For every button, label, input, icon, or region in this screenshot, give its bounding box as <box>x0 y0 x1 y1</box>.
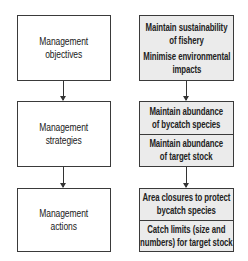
objective-item-environment: Minimise environmental impacts <box>140 50 233 76</box>
label-line: objectives <box>40 48 89 61</box>
label-line: Management <box>40 35 89 48</box>
item-line: Minimise environmental <box>143 50 230 63</box>
management-actions-label: Management actions <box>40 207 89 233</box>
objectives-detail-box: Maintain sustainability of fishery Minim… <box>139 15 234 81</box>
item-line: of bycatch species <box>150 118 224 131</box>
item-line: numbers) for target stock <box>140 236 233 249</box>
item-line: of fishery <box>146 34 228 47</box>
item-line: of target stock <box>150 150 224 163</box>
objective-item-sustainability: Maintain sustainability of fishery <box>140 21 233 47</box>
action-item-area-closures: Area closures to protect bycatch species <box>140 189 233 220</box>
action-item-catch-limits: Catch limits (size and numbers) for targ… <box>140 220 233 252</box>
management-strategies-box: Management strategies <box>17 101 111 167</box>
arrow-objectives-detail-to-strategies-detail <box>186 81 187 100</box>
strategy-item-bycatch: Maintain abundance of bycatch species <box>140 102 233 134</box>
item-line: bycatch species <box>143 204 231 217</box>
label-line: Management <box>40 121 89 134</box>
item-line: Catch limits (size and <box>140 223 233 236</box>
label-line: Management <box>40 207 89 220</box>
strategies-detail-box: Maintain abundance of bycatch species Ma… <box>139 101 234 167</box>
item-line: Maintain abundance <box>150 137 224 150</box>
arrow-objectives-to-strategies <box>63 81 64 100</box>
arrow-strategies-detail-to-actions-detail <box>186 167 187 187</box>
label-line: actions <box>40 220 89 233</box>
management-objectives-label: Management objectives <box>40 35 89 61</box>
strategy-item-target-stock: Maintain abundance of target stock <box>140 134 233 167</box>
actions-detail-box: Area closures to protect bycatch species… <box>139 188 234 252</box>
label-line: strategies <box>40 134 89 147</box>
management-objectives-box: Management objectives <box>17 15 111 81</box>
item-line: Maintain sustainability <box>146 21 228 34</box>
arrow-strategies-to-actions <box>63 167 64 187</box>
management-actions-box: Management actions <box>17 188 111 252</box>
item-line: impacts <box>143 63 230 76</box>
management-strategies-label: Management strategies <box>40 121 89 147</box>
item-line: Maintain abundance <box>150 105 224 118</box>
item-line: Area closures to protect <box>143 191 231 204</box>
